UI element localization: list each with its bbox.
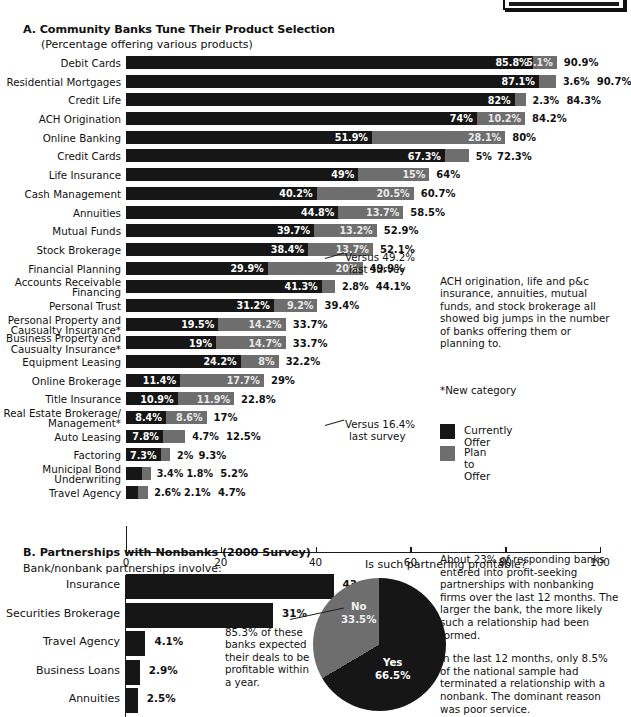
- chart-a-value-currently-offer: 19.5%: [181, 319, 214, 331]
- chart-a-value-total: 44.1%: [376, 281, 411, 293]
- chart-a-value-currently-offer: 19%: [189, 338, 212, 350]
- chart-a-value-total: 4.7%: [218, 487, 246, 499]
- chart-a-row: Mutual Funds39.7%13.2%52.9%: [0, 222, 625, 241]
- pie-label-no-name: No: [351, 601, 367, 612]
- chart-a-row-label: Mutual Funds: [0, 226, 121, 237]
- pie-chart-note: 85.3% of these banks expected their deal…: [225, 626, 310, 688]
- chart-a-value-plan-to-offer: 11.9%: [197, 394, 230, 406]
- chart-a-row-label: Accounts ReceivableFinancing: [0, 277, 121, 297]
- chart-a-value-currently-offer: 2.6%: [154, 487, 181, 499]
- chart-b-row-label: Securities Brokerage: [0, 607, 120, 620]
- chart-b-bar: [126, 603, 273, 628]
- chart-a-value-total: 12.5%: [226, 431, 261, 443]
- chart-a-value-plan-to-offer: 3.6%: [563, 76, 590, 88]
- chart-a-value-plan-to-offer: 2.1%: [184, 487, 211, 499]
- chart-a-value-plan-to-offer: 15%: [402, 169, 425, 181]
- chart-a-row-label: Credit Life: [0, 95, 121, 106]
- chart-a-row-label: Annuities: [0, 208, 121, 219]
- chart-a-row-bars: 11.4%17.7%29%: [126, 372, 600, 391]
- chart-a-row-bars: 7.3%2%9.3%: [126, 446, 600, 465]
- chart-a-row-bars: 51.9%28.1%80%: [126, 129, 600, 148]
- chart-a-value-currently-offer: 51.9%: [335, 132, 368, 144]
- chart-a-value-total: 17%: [214, 412, 238, 424]
- chart-a-row-bars: 82%2.3%84.3%: [126, 91, 600, 110]
- chart-a-value-total: 29%: [271, 375, 295, 387]
- chart-a-segment-plan-to-offer: [163, 430, 185, 443]
- chart-a-segment-currently-offer: [126, 112, 477, 125]
- legend-swatch-plan-to-offer: [440, 446, 455, 461]
- chart-a-segment-plan-to-offer: [322, 280, 335, 293]
- chart-a-row-bars: 10.9%11.9%22.8%: [126, 390, 600, 409]
- chart-a-value-total: 52.9%: [384, 225, 419, 237]
- chart-a-value-total: 72.3%: [497, 151, 532, 163]
- section-b-blurb-p2: In the last 12 months, only 8.5% of the …: [440, 652, 620, 715]
- chart-b-row-label: Business Loans: [0, 664, 120, 677]
- chart-a-row: Municipal BondUnderwriting3.4%1.8%5.2%: [0, 465, 625, 484]
- chart-a-row-label: Debit Cards: [0, 58, 121, 69]
- chart-a-row: Travel Agency2.6%2.1%4.7%: [0, 484, 625, 503]
- pie-label-yes-name: Yes: [383, 657, 402, 668]
- chart-b-value-label: 2.9%: [149, 664, 178, 676]
- chart-a-row: ACH Origination74%10.2%84.2%: [0, 110, 625, 129]
- chart-a-row-bars: 44.8%13.7%58.5%: [126, 204, 600, 223]
- chart-a-value-plan-to-offer: 2.3%: [533, 95, 560, 107]
- chart-a-x-tick: [316, 547, 317, 553]
- chart-a-value-total: 90.7%: [597, 76, 631, 88]
- chart-a-value-total: 84.3%: [566, 95, 601, 107]
- chart-a-row-label: ACH Origination: [0, 114, 121, 125]
- chart-a-value-total: 22.8%: [241, 394, 276, 406]
- chart-a-value-currently-offer: 49%: [331, 169, 354, 181]
- chart-a-row: Cash Management40.2%20.5%60.7%: [0, 185, 625, 204]
- chart-a-row-bars: 74%10.2%84.2%: [126, 110, 600, 129]
- chart-a-value-plan-to-offer: 14.2%: [248, 319, 281, 331]
- chart-a-segment-plan-to-offer: [445, 149, 469, 162]
- chart-a-row-label: Financial Planning: [0, 264, 121, 275]
- chart-a-row-bars: 87.1%3.6%90.7%: [126, 73, 600, 92]
- chart-b-value-label: 4.1%: [154, 635, 183, 647]
- chart-a-value-total: 90.9%: [564, 57, 599, 69]
- chart-a-value-currently-offer: 74%: [450, 113, 473, 125]
- chart-b-row-label: Annuities: [0, 692, 120, 705]
- chart-a-row: Stock Brokerage38.4%13.7%52.1%: [0, 241, 625, 260]
- chart-a-value-total: 80%: [512, 132, 536, 144]
- chart-a-row-bars: 39.7%13.2%52.9%: [126, 222, 600, 241]
- chart-a-value-currently-offer: 67.3%: [408, 151, 441, 163]
- chart-a-segment-currently-offer: [126, 168, 358, 181]
- chart-a-row-label: Credit Cards: [0, 151, 121, 162]
- chart-b-row-label: Travel Agency: [0, 635, 120, 648]
- chart-a-row-label: Real Estate Brokerage/Management*: [0, 408, 121, 428]
- chart-b-row-label: Insurance: [0, 578, 120, 591]
- chart-a-row-bars: 3.4%1.8%5.2%: [126, 465, 600, 484]
- pie-label-yes-value: 66.5%: [375, 670, 410, 681]
- chart-a-row-label: Equipment Leasing: [0, 357, 121, 368]
- clipped-top-box: [503, 0, 625, 10]
- chart-a-value-plan-to-offer: 13.7%: [366, 207, 399, 219]
- chart-a-segment-currently-offer: [126, 149, 445, 162]
- chart-a-value-total: 33.7%: [293, 338, 328, 350]
- chart-a-value-currently-offer: 39.7%: [277, 225, 310, 237]
- chart-a-value-total: 5.2%: [220, 468, 248, 480]
- chart-a-value-plan-to-offer: 5.1%: [526, 57, 553, 69]
- clipped-box-rule: [509, 2, 619, 6]
- chart-a-value-currently-offer: 82%: [488, 95, 511, 107]
- chart-a-value-currently-offer: 85.8%: [495, 57, 528, 69]
- chart-a-row-label: Title Insurance: [0, 394, 121, 405]
- chart-a-value-plan-to-offer: 28.1%: [468, 132, 501, 144]
- chart-a-row: Equipment Leasing24.2%8%32.2%: [0, 353, 625, 372]
- chart-a-row: Credit Cards67.3%5%72.3%: [0, 147, 625, 166]
- chart-a-value-total: 64%: [436, 169, 460, 181]
- chart-a-x-tick: [410, 547, 411, 553]
- chart-a-value-currently-offer: 7.3%: [130, 450, 157, 462]
- chart-a-value-plan-to-offer: 14.7%: [248, 338, 281, 350]
- chart-a-segment-plan-to-offer: [161, 448, 170, 461]
- chart-a-segment-plan-to-offer: [138, 486, 148, 499]
- chart-a-row: Annuities44.8%13.7%58.5%: [0, 204, 625, 223]
- chart-b-bar: [126, 631, 145, 656]
- chart-a-row-bars: 49%15%64%: [126, 166, 600, 185]
- section-a-blurb: ACH origination, life and p&c insurance,…: [440, 275, 615, 349]
- chart-a-row-label: Online Banking: [0, 133, 121, 144]
- chart-a-row: Residential Mortgages87.1%3.6%90.7%: [0, 73, 625, 92]
- chart-a-value-currently-offer: 7.8%: [132, 431, 159, 443]
- chart-a-value-plan-to-offer: 8.6%: [176, 412, 203, 424]
- annotation-equipment-leasing: Versus 16.4% last survey: [345, 419, 415, 442]
